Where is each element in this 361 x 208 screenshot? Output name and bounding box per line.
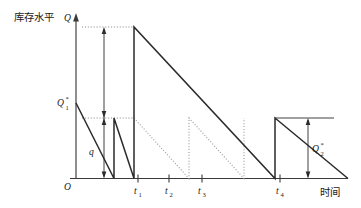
inventory-level-figure: 库存水平 Q 时间 O Q 1 * Q 2 * q t 1 t 2 t <box>0 0 361 208</box>
x-tick-label-t4: t 4 <box>276 185 285 198</box>
q1-base: Q <box>57 97 64 108</box>
t4-subscript: 4 <box>281 191 285 198</box>
t1-subscript: 1 <box>139 191 142 198</box>
x-tick-label-t3: t 3 <box>198 185 207 198</box>
solid-inventory-series <box>76 27 348 179</box>
q-dimension-arrowhead-bottom <box>102 172 107 179</box>
q-dimension-arrowhead-top <box>102 27 107 34</box>
q2-superscript: * <box>321 141 324 148</box>
q2-subscript: 2 <box>321 150 324 157</box>
guide-levels-group <box>82 27 134 118</box>
q-dimension-arrowhead-mid-upper <box>102 111 107 118</box>
t2-subscript: 2 <box>170 191 173 198</box>
q1-superscript: * <box>66 95 69 102</box>
t3-base: t <box>198 185 201 196</box>
q2-dimension-marker <box>275 118 334 179</box>
y-axis-symbol: Q <box>64 12 71 23</box>
solid-inventory-path <box>76 27 348 179</box>
x-axis-title-cjk: 时间 <box>320 186 340 198</box>
q1-subscript: 1 <box>66 104 69 111</box>
q-dimension-arrowhead-mid-lower <box>102 118 107 125</box>
x-tick-label-t2: t 2 <box>165 185 173 198</box>
q-label: q <box>89 146 94 157</box>
axes-group <box>70 13 348 179</box>
y-axis-arrowhead <box>73 13 79 22</box>
q2-dimension-arrowhead-top <box>306 118 311 125</box>
t3-subscript: 3 <box>203 191 207 198</box>
y-axis-title-cjk: 库存水平 <box>14 11 54 23</box>
origin-label: O <box>64 181 71 192</box>
q2-dimension-arrowhead-bottom <box>306 172 311 179</box>
q1-star-label: Q 1 * <box>57 95 69 111</box>
t4-base: t <box>276 185 279 196</box>
chart-svg: 库存水平 Q 时间 O Q 1 * Q 2 * q t 1 t 2 t <box>0 0 361 208</box>
x-tick-label-t1: t 1 <box>134 185 142 198</box>
t2-base: t <box>165 185 168 196</box>
t1-base: t <box>134 185 137 196</box>
q2-base: Q <box>312 143 319 154</box>
